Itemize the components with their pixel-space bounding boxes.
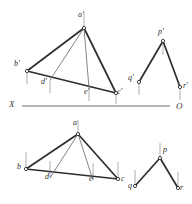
label-r: r [180,184,183,192]
upper-triangle-group [25,12,117,104]
point-a-prime [82,26,85,29]
edge-pr [160,158,178,188]
edge-ac [78,134,118,179]
label-d-prime: d' [41,78,47,86]
edge-pq [135,158,160,186]
label-o-axis: O [176,102,183,111]
label-r-prime: r' [183,82,188,90]
label-p: p [163,146,167,154]
upper-vee-group [137,39,181,100]
edge-ab-prime [27,28,84,71]
label-b-prime: b' [14,60,20,68]
cevian-ad-prime [50,28,84,80]
edge-pq-prime [139,41,163,82]
point-q [133,184,136,187]
label-d: d [45,173,49,181]
label-q-prime: q' [128,74,134,82]
edge-pr-prime [163,41,180,87]
point-b [24,167,27,170]
point-c [116,177,119,180]
label-c: c [121,175,125,183]
point-p-prime [161,39,164,42]
label-b: b [17,163,21,171]
point-q-prime [137,80,140,83]
label-e-prime: e' [84,88,89,96]
lower-vee-group [133,143,179,190]
label-x-axis: X [9,100,15,109]
point-b-prime [25,69,28,72]
point-a [76,132,79,135]
label-a-prime: a' [78,11,84,19]
edge-ab [26,134,78,169]
label-p-prime: p' [158,28,164,36]
label-q: q [128,182,132,190]
point-r-prime [178,85,181,88]
lower-triangle-group [24,120,119,181]
label-e: e [89,175,93,183]
descriptive-geometry-figure: a' b' d' e' c' p' q' r' X O a b d e c p … [0,0,192,204]
label-c-prime: c' [117,88,122,96]
point-p [158,156,161,159]
edge-bc [26,169,118,179]
label-a: a [73,119,77,127]
cevian-ad [50,134,78,178]
